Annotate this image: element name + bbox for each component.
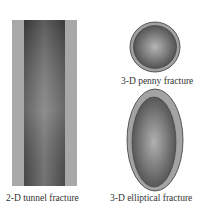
penny-fracture-label: 3-D penny fracture (121, 76, 193, 86)
elliptical-fracture-label: 3-D elliptical fracture (110, 193, 192, 203)
tunnel-fracture-label: 2-D tunnel fracture (6, 193, 79, 203)
fracture-diagram (0, 0, 205, 210)
elliptical-fracture-shape (127, 89, 183, 191)
tunnel-fracture-shape (12, 20, 77, 186)
penny-fracture-shape (130, 22, 180, 72)
